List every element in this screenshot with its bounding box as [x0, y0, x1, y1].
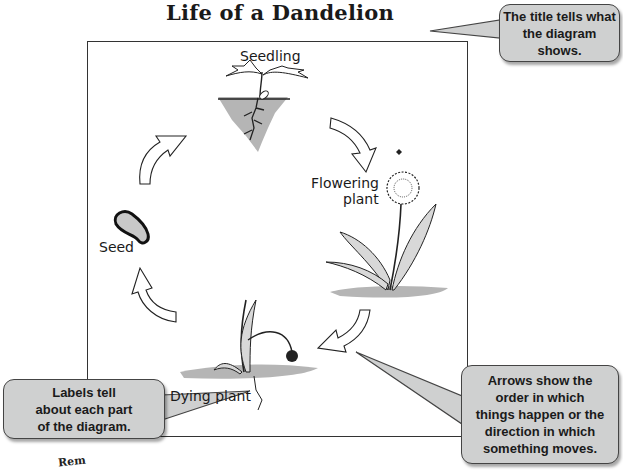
stage-label-seedling: Seedling [240, 48, 301, 64]
arrows-callout-line4: direction in which [476, 423, 605, 440]
stage-label-flowering-line2: plant [343, 191, 379, 207]
flowering-plant-illustration [326, 149, 448, 298]
arrows-callout-line5: something moves. [476, 440, 605, 457]
seedling-illustration [218, 60, 308, 152]
labels-callout-line1: Labels tell [36, 384, 133, 401]
labels-callout-line2: about each part [36, 401, 133, 418]
title-callout: The title tells what the diagram shows. [499, 4, 620, 62]
title-callout-pointer [430, 20, 500, 38]
arrow-flowering-to-dying-icon [318, 310, 370, 352]
arrows-callout-pointer [356, 352, 462, 424]
labels-callout-line3: of the diagram. [36, 418, 133, 435]
stage-label-seed: Seed [99, 239, 134, 255]
title-callout-line1: The title tells what [500, 8, 619, 25]
stage-label-dying: Dying plant [170, 388, 251, 404]
arrows-callout: Arrows show the order in which things ha… [461, 365, 619, 464]
title-callout-line2: the diagram shows. [500, 25, 619, 59]
labels-callout: Labels tell about each part of the diagr… [3, 379, 165, 439]
arrow-dying-to-seed-icon [132, 268, 176, 322]
arrows-callout-line3: things happen or the [476, 406, 605, 423]
arrow-seed-to-seedling-icon [140, 136, 186, 184]
cycle-arrows [132, 118, 376, 352]
arrow-seedling-to-flowering-icon [330, 118, 376, 172]
stage-label-flowering-line1: Flowering [311, 175, 379, 191]
arrows-callout-line1: Arrows show the [476, 372, 605, 389]
arrows-callout-line2: order in which [476, 389, 605, 406]
